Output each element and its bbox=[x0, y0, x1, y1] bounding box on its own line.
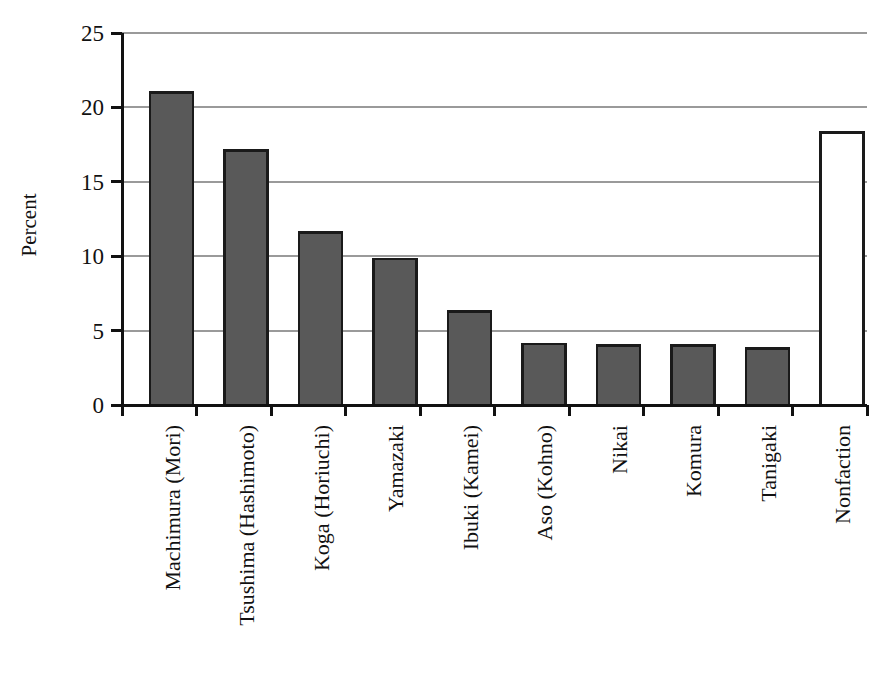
y-tick-label-25: 25 bbox=[81, 21, 104, 46]
bar-chart-figure: 0510152025 Machimura (Mori)Tsushima (Has… bbox=[0, 0, 887, 675]
x-category-label-8: Tanigaki bbox=[756, 425, 781, 502]
bar-5 bbox=[523, 344, 566, 405]
y-tick-label-5: 5 bbox=[93, 319, 105, 344]
bar-9 bbox=[821, 133, 864, 405]
x-category-label-1: Tsushima (Hashimoto) bbox=[234, 425, 259, 626]
x-category-label-4: Ibuki (Kamei) bbox=[458, 425, 483, 550]
bar-2 bbox=[299, 232, 342, 405]
x-category-label-6: Nikai bbox=[607, 425, 632, 474]
y-tick-label-20: 20 bbox=[81, 95, 104, 120]
y-tick-label-0: 0 bbox=[93, 393, 105, 418]
x-category-label-9: Nonfaction bbox=[830, 425, 855, 524]
bar-6 bbox=[597, 345, 640, 405]
bar-8 bbox=[746, 348, 789, 405]
bar-7 bbox=[672, 345, 715, 405]
chart-canvas: 0510152025 Machimura (Mori)Tsushima (Has… bbox=[0, 0, 887, 675]
y-axis-title: Percent bbox=[17, 193, 41, 256]
x-category-label-2: Koga (Horiuchi) bbox=[309, 425, 334, 571]
y-tick-label-15: 15 bbox=[81, 170, 104, 195]
y-tick-label-10: 10 bbox=[81, 244, 104, 269]
x-category-label-0: Machimura (Mori) bbox=[160, 425, 185, 591]
x-category-label-5: Aso (Kohno) bbox=[532, 425, 557, 541]
bar-0 bbox=[150, 93, 193, 405]
chart-background bbox=[0, 0, 887, 675]
bar-3 bbox=[374, 259, 417, 405]
bar-4 bbox=[448, 311, 491, 405]
x-category-label-3: Yamazaki bbox=[383, 425, 408, 512]
bar-1 bbox=[225, 151, 268, 405]
x-category-label-7: Komura bbox=[681, 425, 706, 497]
